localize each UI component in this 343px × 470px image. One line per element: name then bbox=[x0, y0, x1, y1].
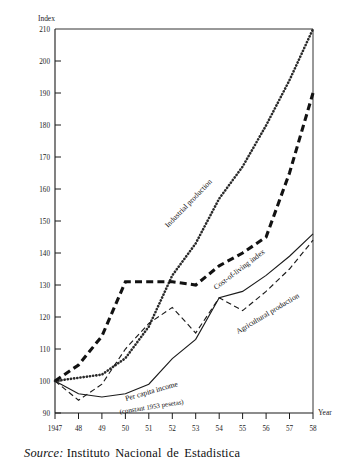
y-axis-title: Index bbox=[38, 14, 55, 23]
y-tick-label: 200 bbox=[39, 58, 50, 66]
x-tick-labels: 1947 48 49 50 51 52 53 54 55 56 57 58 bbox=[48, 425, 317, 433]
x-tick-label: 1947 bbox=[48, 425, 63, 433]
y-tick-label: 90 bbox=[43, 410, 51, 418]
y-tick-label: 150 bbox=[39, 218, 50, 226]
x-tick-label: 52 bbox=[169, 425, 177, 433]
x-tick-label: 50 bbox=[122, 425, 130, 433]
y-tick-label: 120 bbox=[39, 314, 50, 322]
y-tick-label: 190 bbox=[39, 90, 50, 98]
x-tick-label: 55 bbox=[239, 425, 247, 433]
y-ticks bbox=[55, 61, 61, 413]
y-tick-label: 170 bbox=[39, 154, 50, 162]
y-tick-label: 210 bbox=[39, 26, 50, 34]
x-tick-label: 51 bbox=[145, 425, 153, 433]
y-tick-label: 100 bbox=[39, 378, 50, 386]
x-axis-title: Year bbox=[318, 408, 332, 417]
y-tick-label: 110 bbox=[39, 346, 50, 354]
x-tick-label: 49 bbox=[98, 425, 106, 433]
chart-frame bbox=[55, 29, 313, 413]
chart-figure: 90 100 110 120 130 140 150 160 170 180 1… bbox=[0, 0, 343, 470]
x-tick-label: 53 bbox=[192, 425, 200, 433]
y-tick-labels: 90 100 110 120 130 140 150 160 170 180 1… bbox=[39, 26, 50, 418]
x-tick-label: 56 bbox=[263, 425, 271, 433]
x-ticks bbox=[55, 413, 313, 419]
x-tick-label: 58 bbox=[309, 425, 317, 433]
series-label-industrial-production: Industrial production bbox=[163, 177, 214, 229]
source-text: Instituto Nacional de Estadistica bbox=[67, 446, 240, 460]
y-tick-label: 160 bbox=[39, 186, 50, 194]
source-prefix: Source: bbox=[24, 446, 63, 460]
line-chart: 90 100 110 120 130 140 150 160 170 180 1… bbox=[0, 0, 343, 445]
x-tick-label: 57 bbox=[286, 425, 294, 433]
y-tick-label: 140 bbox=[39, 250, 50, 258]
x-tick-label: 54 bbox=[216, 425, 224, 433]
x-tick-label: 48 bbox=[75, 425, 83, 433]
y-tick-label: 130 bbox=[39, 282, 50, 290]
series-label-agricultural-production: Agricultural production bbox=[234, 291, 300, 336]
y-tick-label: 180 bbox=[39, 122, 50, 130]
source-caption: Source: Instituto Nacional de Estadistic… bbox=[24, 446, 240, 461]
series-cost-of-living-index bbox=[55, 93, 313, 381]
